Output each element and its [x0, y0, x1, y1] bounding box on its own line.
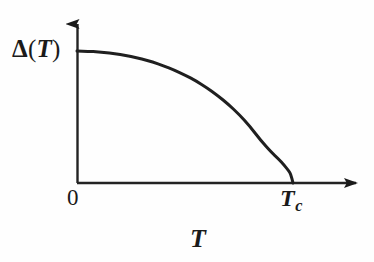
gap-curve [77, 51, 293, 183]
delta-symbol: Δ [12, 35, 28, 62]
critical-temperature-tick-label: Tc [280, 186, 302, 214]
temperature-variable: T [36, 35, 51, 62]
tc-symbol: T [280, 185, 295, 211]
tc-subscript: c [295, 196, 302, 215]
close-paren: ) [52, 35, 61, 62]
figure-container: Δ(T) 0 Tc T [0, 0, 374, 262]
x-axis-label: T [190, 226, 206, 252]
y-axis-label: Δ(T) [12, 36, 60, 61]
origin-tick-label: 0 [67, 186, 79, 209]
